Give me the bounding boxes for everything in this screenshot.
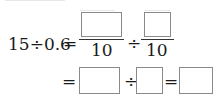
cropped-text-remnant bbox=[80, 10, 115, 11]
equals-sign-row2: = bbox=[62, 73, 76, 90]
answer-blank-2[interactable] bbox=[136, 67, 163, 94]
cropped-text-remnant bbox=[145, 10, 170, 11]
fraction2-numerator-blank[interactable] bbox=[144, 12, 171, 37]
fraction2-denominator: 10 bbox=[146, 42, 168, 59]
cropped-text-remnant bbox=[5, 0, 65, 1]
divide-sign: ÷ bbox=[127, 35, 141, 52]
equals-sign-row2-second: = bbox=[164, 73, 178, 90]
fraction1-denominator: 10 bbox=[91, 42, 113, 59]
fraction1-numerator-blank[interactable] bbox=[81, 12, 122, 37]
answer-blank-3[interactable] bbox=[179, 67, 213, 94]
equals-sign: = bbox=[63, 35, 77, 52]
answer-blank-1[interactable] bbox=[79, 67, 120, 94]
dividend-expression: 15÷0.6 bbox=[8, 36, 71, 53]
